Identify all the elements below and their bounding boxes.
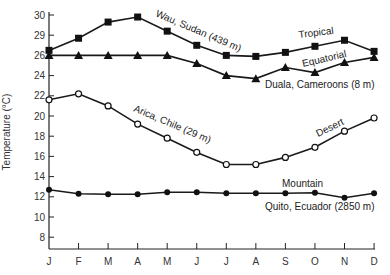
x-tick-label: N: [341, 256, 348, 267]
label-arica: Arica, Chile (29 m): [132, 103, 213, 145]
data-point: [281, 63, 290, 71]
data-point: [371, 115, 377, 121]
x-tick-label: J: [224, 256, 229, 267]
data-point: [164, 189, 170, 195]
data-point: [194, 189, 200, 195]
data-point: [46, 97, 52, 103]
temperature-chart: 81012141618202224262930 JFMAMJJASOND Tem…: [0, 0, 390, 275]
y-tick-label: 8: [39, 232, 45, 243]
data-point: [341, 37, 348, 44]
data-point: [311, 43, 318, 50]
x-tick-label: A: [253, 256, 260, 267]
label-desert: Desert: [314, 116, 345, 139]
y-tick-label: 12: [34, 191, 46, 202]
y-tick-label: 29: [34, 30, 46, 41]
data-point: [312, 144, 318, 150]
data-point: [282, 49, 289, 56]
data-point: [282, 154, 288, 160]
data-point: [76, 91, 82, 97]
data-point: [105, 191, 111, 197]
data-point: [135, 121, 141, 127]
data-point: [76, 191, 82, 197]
series-line-mountain: [49, 190, 374, 198]
data-point: [253, 161, 259, 167]
data-point: [252, 53, 259, 60]
y-tick-label: 22: [34, 90, 46, 101]
series-mountain: [46, 187, 377, 201]
y-tick-label: 18: [34, 131, 46, 142]
data-point: [342, 195, 348, 201]
data-point: [193, 42, 200, 49]
data-point: [223, 161, 229, 167]
x-tick-label: S: [282, 256, 289, 267]
data-point: [253, 190, 259, 196]
data-point: [135, 191, 141, 197]
y-tick-label: 16: [34, 151, 46, 162]
x-tick-label: M: [104, 256, 112, 267]
x-tick-label: A: [134, 256, 141, 267]
data-point: [105, 19, 112, 26]
y-tick-label: 26: [34, 50, 46, 61]
x-ticks: JFMAMJJASOND: [47, 243, 378, 267]
x-tick-label: M: [163, 256, 171, 267]
x-tick-label: D: [370, 256, 377, 267]
data-point: [312, 190, 318, 196]
data-point: [164, 28, 171, 35]
y-tick-label: 20: [34, 111, 46, 122]
x-tick-label: O: [311, 256, 319, 267]
y-tick-label: 30: [34, 10, 46, 21]
label-mountain: Mountain: [282, 178, 323, 189]
data-point: [223, 52, 230, 59]
x-tick-label: J: [47, 256, 52, 267]
y-tick-label: 24: [34, 70, 46, 81]
x-tick-label: F: [75, 256, 81, 267]
y-ticks: 81012141618202224262930: [34, 10, 54, 243]
label-duala: Duala, Cameroons (8 m): [265, 79, 374, 90]
y-tick-label: 10: [34, 212, 46, 223]
data-point: [134, 14, 141, 21]
data-point: [46, 187, 52, 193]
y-axis-title: Temperature (°C): [1, 94, 12, 171]
label-quito: Quito, Ecuador (2850 m): [265, 201, 375, 212]
data-point: [105, 103, 111, 109]
data-point: [164, 135, 170, 141]
data-point: [223, 190, 229, 196]
label-tropical: Tropical: [298, 25, 334, 40]
y-tick-label: 14: [34, 171, 46, 182]
x-tick-label: J: [194, 256, 199, 267]
data-point: [194, 149, 200, 155]
data-point: [342, 128, 348, 134]
data-point: [282, 190, 288, 196]
data-point: [371, 190, 377, 196]
data-point: [75, 35, 82, 42]
